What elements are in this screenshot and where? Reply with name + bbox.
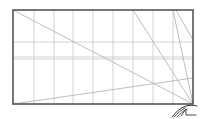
diagram-canvas — [0, 0, 202, 119]
construction-line — [13, 78, 193, 104]
signature-scribble — [172, 105, 197, 117]
